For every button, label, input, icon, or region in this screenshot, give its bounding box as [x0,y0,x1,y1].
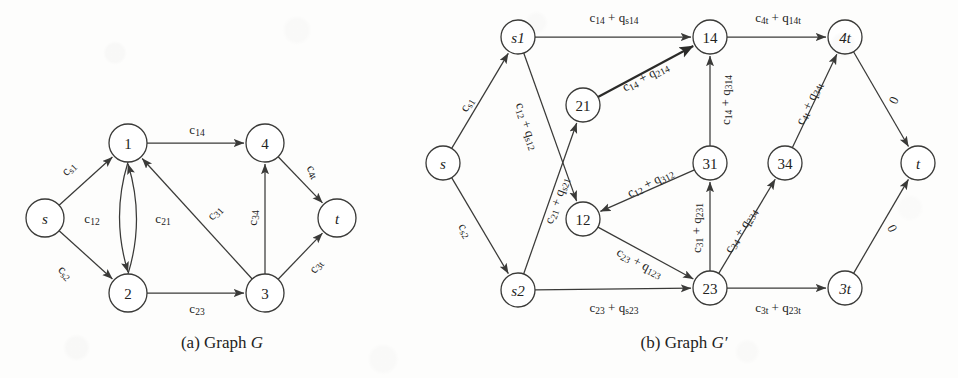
node-31: 31 [693,146,727,180]
edge-label-31-14: c14 + q314 [718,75,735,125]
edge-s-s1 [452,53,509,148]
caption-b-text: (b) Graph [641,333,712,352]
node-label-14: 14 [703,30,719,46]
edge-label-14-4t: c4t + q14t [755,10,801,27]
edge-label-23-3t: c3t + q23t [755,300,801,317]
edge-label-21-14: c14 + q214 [619,58,671,95]
node-14: 14 [693,20,727,54]
node-s: s [26,199,64,237]
node-12: 12 [566,202,600,236]
caption-a-text: (a) Graph [181,333,251,352]
node-s1: s1 [501,20,535,54]
node-1: 1 [109,124,147,162]
node-3t: 3t [828,271,862,305]
node-label-4t: 4t [839,30,852,46]
node-label-23: 23 [703,281,718,297]
node-label-3t: 3t [838,281,852,297]
edge-label-s-s2: cs2 [455,220,477,241]
node-label-31: 31 [703,156,718,172]
node-label-s2: s2 [511,283,525,299]
node-label-4: 4 [261,136,269,152]
graph-a-nodes: s1234t [26,124,356,312]
caption-graph-a: (a) Graph G [181,333,263,352]
node-3: 3 [246,274,284,312]
edge-label-1-2: c12 [84,211,100,228]
graph-a-edge-labels: cs1cs2c12c21c14c31c23c34c4tc3t [55,122,327,318]
node-t: t [901,146,935,180]
edge-label-1-4: c14 [189,122,205,139]
node-label-2: 2 [124,286,132,302]
node-34: 34 [768,146,802,180]
caption-graph-b: (b) Graph G′ [641,333,728,352]
edge-2-1 [128,164,137,274]
node-4: 4 [246,124,284,162]
edge-label-s2-23: c23 + qs23 [590,300,639,317]
caption-a-symbol: G [251,333,263,352]
edge-label-3-t: c3t [305,256,326,277]
edge-label-2-3: c23 [189,301,205,318]
node-label-21: 21 [576,98,591,114]
edge-label-s-2: cs2 [55,262,77,284]
node-t: t [318,199,356,237]
node-s: s [426,146,460,180]
node-label-12: 12 [576,212,591,228]
edge-1-2 [120,162,129,272]
node-label-s: s [42,211,48,227]
node-label-34: 34 [778,156,794,172]
graph-b-edges [452,37,909,290]
edge-label-23-34: c34 + q234 [720,205,761,256]
edge-label-31-12: c12 + q312 [624,164,676,201]
node-label-1: 1 [124,136,132,152]
edge-label-2-1: c21 [155,211,171,228]
node-s2: s2 [501,273,535,307]
edge-label-23-31: c31 + q231 [689,203,706,253]
edge-label-3t-t: 0 [885,222,901,234]
node-2: 2 [109,274,147,312]
edge-label-4t-t: 0 [885,94,901,106]
figure-two-graphs: cs1cs2c12c21c14c31c23c34c4tc3t s1234t cs… [0,0,958,378]
node-23: 23 [693,271,727,305]
node-4t: 4t [828,20,862,54]
node-label-s: s [440,156,446,172]
node-21: 21 [566,88,600,122]
edge-label-34-4t: c4t + q34t [792,79,826,128]
edge-4t-t [854,52,909,147]
edge-label-4-t: c4t [303,161,324,181]
edge-s2-23 [535,288,691,290]
edge-label-s-1: cs1 [58,157,80,179]
edge-label-3-1: c31 [203,201,226,224]
caption-b-symbol: G′ [711,333,727,352]
edge-s-1 [59,157,112,205]
node-label-s1: s1 [511,30,524,46]
edge-label-s1-12: c12 + qs12 [512,100,543,152]
edge-label-3-4: c34 [245,210,262,226]
edge-label-s1-14: c14 + qs14 [590,10,639,27]
node-label-3: 3 [261,286,269,302]
figure-canvas: cs1cs2c12c21c14c31c23c34c4tc3t s1234t cs… [0,0,958,378]
